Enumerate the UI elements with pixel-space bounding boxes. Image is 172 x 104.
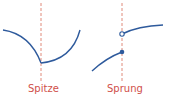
- sprung-lower-curve: [92, 52, 122, 71]
- sprung-label: Sprung: [107, 83, 143, 94]
- open-point-icon: [120, 32, 124, 36]
- spitze-left-curve: [3, 30, 41, 63]
- spitze-right-curve: [41, 30, 80, 63]
- spitze-label: Spitze: [28, 83, 59, 94]
- filled-point-icon: [120, 50, 125, 55]
- diagram-canvas: [0, 0, 172, 104]
- sprung-upper-curve: [122, 25, 163, 34]
